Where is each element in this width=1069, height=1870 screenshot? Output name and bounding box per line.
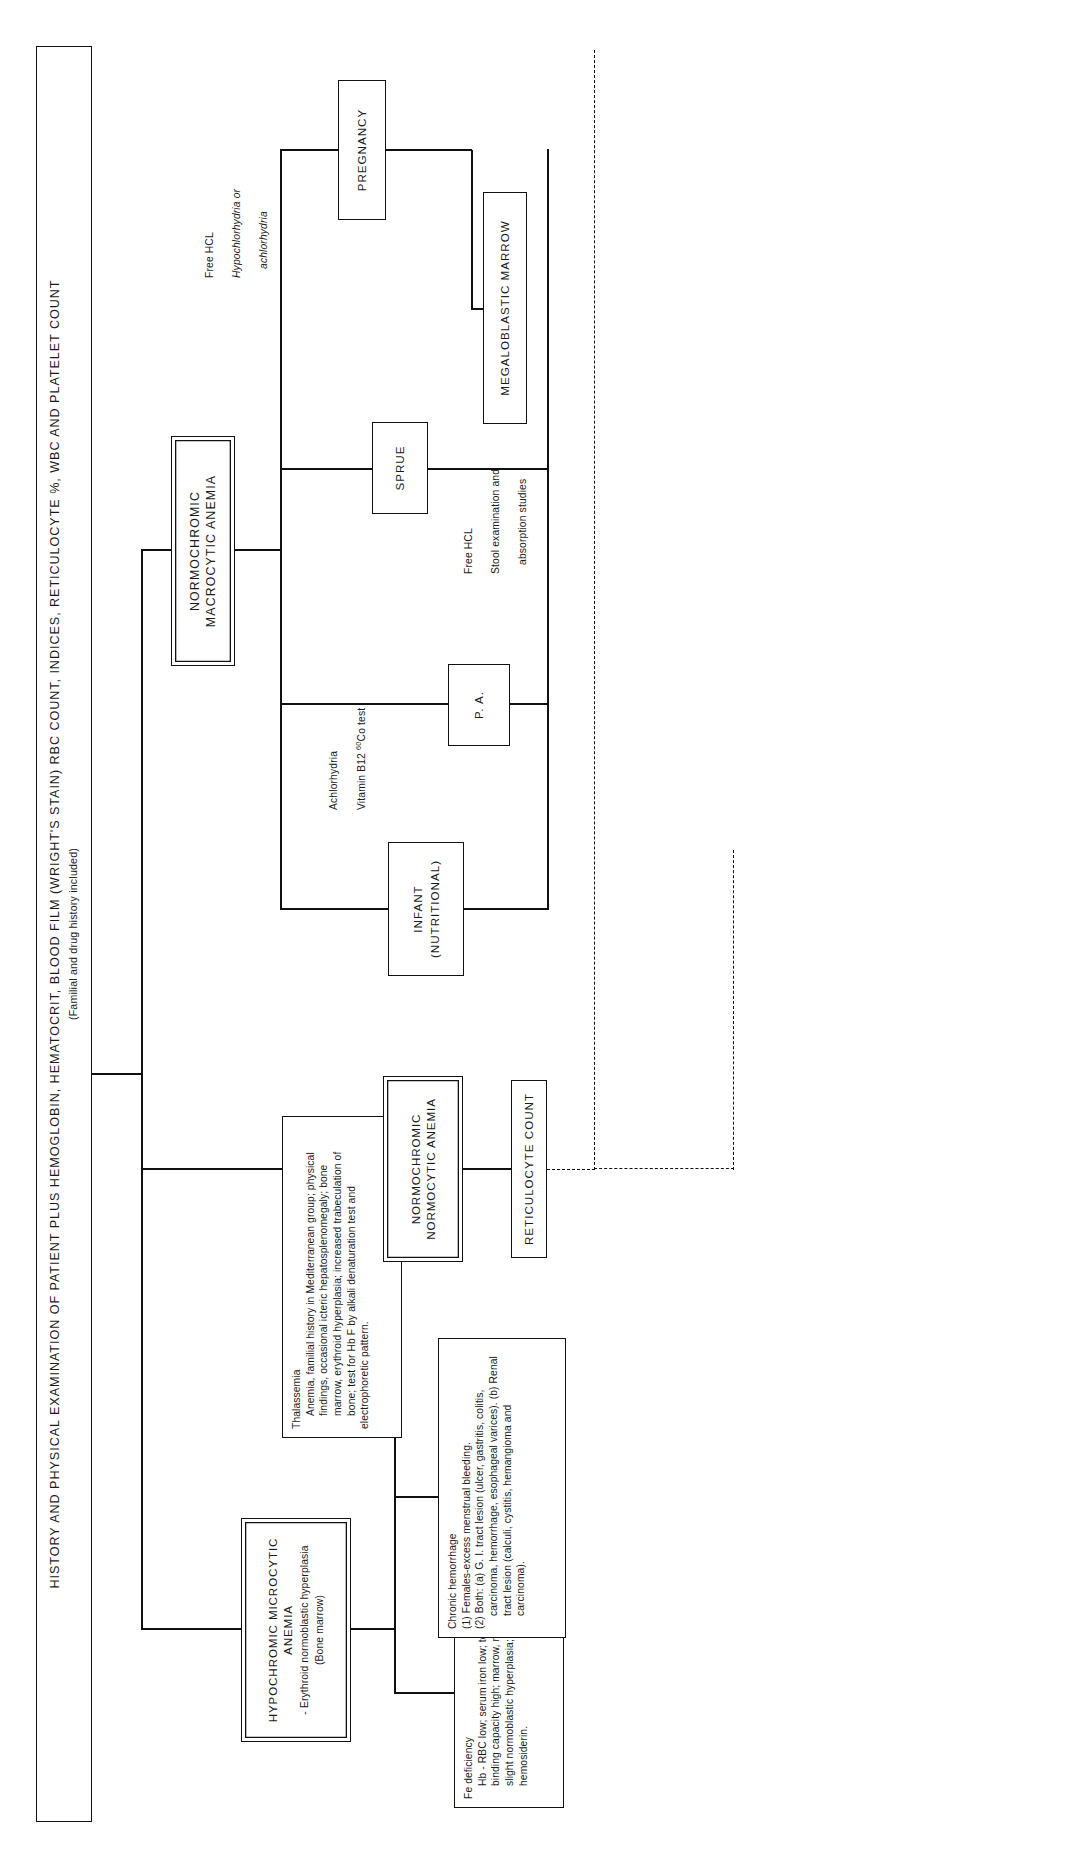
pregnancy-test-line-3: achlorhydria bbox=[257, 122, 271, 278]
trunk-horizontal bbox=[141, 550, 143, 1630]
category-hypochromic-microcytic-anemia: HYPOCHROMIC MICROCYTIC ANEMIA - Erythroi… bbox=[241, 1518, 351, 1742]
sprue-to-mega bbox=[428, 469, 548, 471]
reticulocyte-dashed-bottom bbox=[733, 850, 734, 1170]
pregnancy-label: PREGNANCY bbox=[354, 109, 369, 191]
category-normochromic-macrocytic-anemia: NORMOCHROMIC MACROCYTIC ANEMIA bbox=[171, 436, 235, 666]
macrocytic-to-sprue bbox=[280, 469, 372, 471]
sprue-test-line-3: absorption studies bbox=[516, 424, 530, 574]
node-infant-nutritional: INFANT (NUTRITIONAL) bbox=[388, 842, 464, 976]
sprue-label: SPRUE bbox=[392, 446, 407, 491]
chronic-hemorrhage-line-5: carcinoma). bbox=[514, 1561, 528, 1629]
sprue-test-line-1: Free HCL bbox=[462, 424, 476, 574]
flowchart-canvas: HISTORY AND PHYSICAL EXAMINATION OF PATI… bbox=[0, 0, 1069, 1870]
pregnancy-test-line-2: Hypochlorhydria or bbox=[230, 122, 244, 278]
category-hypochromic-label: HYPOCHROMIC MICROCYTIC ANEMIA bbox=[265, 1529, 295, 1731]
hypochromic-to-fe bbox=[394, 1693, 454, 1695]
chronic-hemorrhage-line-3: carcinoma, hemorrhage, esophageal varice… bbox=[487, 1356, 501, 1629]
mega-stem bbox=[471, 309, 483, 311]
node-megaloblastic-marrow: MEGALOBLASTIC MARROW bbox=[483, 192, 527, 424]
thalassemia-title: Thalassemia bbox=[290, 1370, 304, 1429]
chronic-hemorrhage-title: Chronic hemorrhage bbox=[446, 1533, 460, 1629]
pa-to-mega bbox=[510, 704, 548, 706]
chronic-hemorrhage-line-1: (1) Females-excess menstrual bleeding. bbox=[460, 1442, 474, 1629]
hypochromic-stem bbox=[351, 1629, 395, 1631]
normocytic-stem bbox=[463, 1169, 511, 1171]
infant-collector-bar bbox=[547, 704, 549, 910]
megaloblastic-marrow-label: MEGALOBLASTIC MARROW bbox=[497, 220, 512, 395]
category-hypochromic-sub2: (Bone marrow) bbox=[313, 1595, 327, 1665]
pregnancy-to-mega bbox=[386, 150, 472, 152]
edge-label-pa-tests: Achlorhydria Vitamin B12 60Co test bbox=[313, 698, 382, 810]
pregnancy-test-line-1: Free HCL bbox=[203, 122, 217, 278]
macrocytic-to-pregnancy bbox=[280, 150, 338, 152]
mega-collector-bar-right bbox=[471, 150, 473, 310]
infant-sublabel: (NUTRITIONAL) bbox=[427, 860, 442, 958]
fe-deficiency-line-4: hemosiderin. bbox=[517, 1726, 531, 1799]
drop-hypochromic bbox=[141, 1629, 241, 1631]
thalassemia-line-2: findings, occasional icteric hepatosplen… bbox=[317, 1165, 331, 1429]
pa-test-line-1: Achlorhydria bbox=[327, 698, 341, 810]
chronic-hemorrhage-line-4: tract lesion (calculi, cystitis, hemangi… bbox=[501, 1405, 515, 1629]
thalassemia-line-5: electrophoretic pattern. bbox=[358, 1321, 372, 1429]
reticulocyte-count-label: RETICULOCYTE COUNT bbox=[521, 1093, 536, 1245]
drop-macrocytic bbox=[141, 550, 171, 552]
node-pregnancy: PREGNANCY bbox=[338, 80, 386, 220]
infant-label: INFANT bbox=[410, 885, 425, 932]
category-hypochromic-sub: - Erythroid normoblastic hyperplasia bbox=[298, 1545, 312, 1714]
sprue-test-line-2: Stool examination and bbox=[489, 424, 503, 574]
reticulocyte-dashed-bar bbox=[594, 50, 595, 1170]
trunk-vertical bbox=[92, 1074, 142, 1076]
category-normocytic-label: NORMOCHROMIC NORMOCYTIC ANEMIA bbox=[408, 1087, 438, 1251]
edge-label-pregnancy-tests: Free HCL Hypochlorhydria or achlorhydria bbox=[189, 122, 284, 278]
node-sprue: SPRUE bbox=[372, 422, 428, 514]
chronic-hemorrhage-line-2: (2) Both: (a) G. I. tract lesion (ulcer,… bbox=[473, 1390, 487, 1629]
rotated-canvas-wrapper: HISTORY AND PHYSICAL EXAMINATION OF PATI… bbox=[0, 0, 1069, 1870]
macrocytic-to-infant bbox=[280, 909, 388, 911]
thalassemia-line-3: marrow, erythroid hyperplasia; increased… bbox=[331, 1152, 345, 1429]
thalassemia-line-4: bone; test for Hb F by alkali denaturati… bbox=[345, 1186, 359, 1429]
detail-box-chronic-hemorrhage: Chronic hemorrhage (1) Females-excess me… bbox=[438, 1338, 566, 1638]
node-reticulocyte-count: RETICULOCYTE COUNT bbox=[511, 1080, 547, 1258]
node-pa: P. A. bbox=[448, 664, 510, 746]
category-normochromic-normocytic-anemia: NORMOCHROMIC NORMOCYTIC ANEMIA bbox=[383, 1076, 463, 1262]
reticulocyte-dashed-stem bbox=[547, 1169, 595, 1170]
reticulocyte-dashed-left-drop bbox=[594, 1168, 734, 1169]
mega-collector-bar bbox=[547, 149, 549, 705]
macrocytic-stem bbox=[235, 550, 281, 552]
fe-deficiency-title: Fe deficiency bbox=[462, 1737, 476, 1799]
hypochromic-to-chronic bbox=[394, 1497, 438, 1499]
title-box: HISTORY AND PHYSICAL EXAMINATION OF PATI… bbox=[36, 46, 92, 1822]
category-macrocytic-label: NORMOCHROMIC MACROCYTIC ANEMIA bbox=[187, 447, 219, 655]
pa-test-line-2: Vitamin B12 60Co test bbox=[354, 698, 369, 810]
thalassemia-line-1: Anemia, familial history in Mediterranea… bbox=[304, 1152, 318, 1429]
infant-to-collector bbox=[464, 909, 548, 911]
title-line-2: (Familial and drug history included) bbox=[67, 848, 81, 1020]
title-line-1: HISTORY AND PHYSICAL EXAMINATION OF PATI… bbox=[47, 280, 63, 1589]
edge-label-sprue-tests: Free HCL Stool examination and absorptio… bbox=[448, 424, 543, 574]
pa-label: P. A. bbox=[471, 691, 486, 719]
